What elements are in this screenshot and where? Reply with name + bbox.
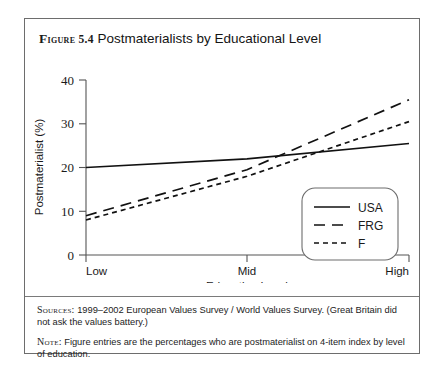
legend-label-f: F bbox=[358, 237, 365, 251]
y-axis-ticks bbox=[79, 80, 86, 255]
chart-plot-area: 0 10 20 30 40 Low Mid High Education Lev… bbox=[25, 51, 419, 283]
x-tick-label-high: High bbox=[385, 265, 409, 277]
general-note: Note: Figure entries are the percentages… bbox=[37, 336, 409, 361]
legend-label-usa: USA bbox=[358, 201, 383, 215]
legend-box bbox=[302, 188, 398, 260]
note-text: Figure entries are the percentages who a… bbox=[37, 337, 405, 359]
y-tick-label-0: 0 bbox=[68, 248, 75, 263]
sources-text: 1999–2002 European Values Survey / World… bbox=[37, 305, 397, 327]
y-tick-label-20: 20 bbox=[61, 160, 74, 175]
y-axis-tick-labels: 0 10 20 30 40 bbox=[61, 73, 74, 263]
legend-label-frg: FRG bbox=[358, 219, 383, 233]
y-tick-label-40: 40 bbox=[61, 73, 74, 88]
line-chart-svg: 0 10 20 30 40 Low Mid High Education Lev… bbox=[25, 51, 419, 283]
figure-label-initial: F bbox=[39, 31, 48, 46]
x-tick-label-mid: Mid bbox=[238, 265, 257, 277]
note-label: Note: bbox=[37, 336, 62, 347]
x-axis-title: Education Level bbox=[206, 280, 288, 283]
sources-label: Sources: bbox=[37, 304, 75, 315]
figure-title-row: FIGURE 5.4 Postmaterialists by Education… bbox=[39, 29, 411, 49]
y-axis-title: Postmaterialist (%) bbox=[33, 119, 45, 216]
chart-legend[interactable]: USA FRG F bbox=[302, 188, 398, 260]
y-tick-label-10: 10 bbox=[61, 204, 74, 219]
figure-notes: Sources: 1999–2002 European Values Surve… bbox=[37, 304, 409, 368]
x-tick-label-low: Low bbox=[86, 265, 108, 277]
series-line-usa bbox=[86, 144, 409, 168]
page-title: Postmaterialists by Educational Level bbox=[94, 31, 321, 46]
x-axis-tick-labels: Low Mid High bbox=[86, 265, 409, 277]
figure-title-text: Postmaterialists by Educational Level bbox=[98, 31, 322, 46]
y-tick-label-30: 30 bbox=[61, 116, 74, 131]
figure-number: 5.4 bbox=[78, 33, 93, 45]
footer-divider bbox=[25, 296, 419, 297]
figure-container: FIGURE 5.4 Postmaterialists by Education… bbox=[24, 18, 420, 354]
figure-label: FIGURE 5.4 bbox=[39, 33, 94, 45]
figure-label-rest: IGURE bbox=[48, 33, 76, 45]
sources-note: Sources: 1999–2002 European Values Surve… bbox=[37, 304, 409, 329]
